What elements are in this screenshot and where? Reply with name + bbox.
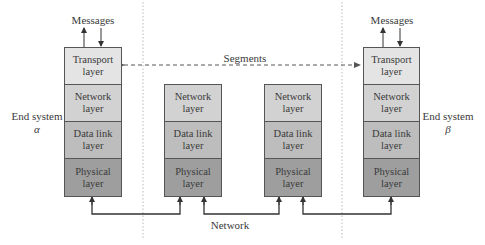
physical-layer-router1: Physical layer <box>164 158 222 197</box>
end-system-alpha-label: End system <box>10 110 64 122</box>
segments-label: Segments <box>215 52 275 64</box>
end-system-beta-label: End system <box>421 110 475 122</box>
link-router1-router2 <box>204 197 279 214</box>
transport-layer-beta: Transport layer <box>363 47 420 85</box>
beta-symbol: β <box>421 123 475 135</box>
network-layer-beta: Network layer <box>363 84 420 122</box>
physical-layer-beta: Physical layer <box>363 158 420 197</box>
network-layer-alpha: Network layer <box>64 84 122 122</box>
protocol-stack-diagram: Messages Messages Segments Network End s… <box>0 0 485 245</box>
datalink-layer-alpha: Data link layer <box>64 121 122 159</box>
messages-label-beta: Messages <box>367 14 417 26</box>
messages-label-alpha: Messages <box>68 14 118 26</box>
network-label: Network <box>205 219 255 231</box>
link-router2-beta <box>303 197 391 214</box>
physical-layer-alpha: Physical layer <box>64 158 122 197</box>
network-layer-router2: Network layer <box>264 84 322 122</box>
physical-layer-router2: Physical layer <box>264 158 322 197</box>
network-layer-router1: Network layer <box>164 84 222 122</box>
link-alpha-router1 <box>92 197 180 214</box>
datalink-layer-router1: Data link layer <box>164 121 222 159</box>
alpha-symbol: α <box>10 123 64 135</box>
datalink-layer-beta: Data link layer <box>363 121 420 159</box>
transport-layer-alpha: Transport layer <box>64 47 122 85</box>
datalink-layer-router2: Data link layer <box>264 121 322 159</box>
